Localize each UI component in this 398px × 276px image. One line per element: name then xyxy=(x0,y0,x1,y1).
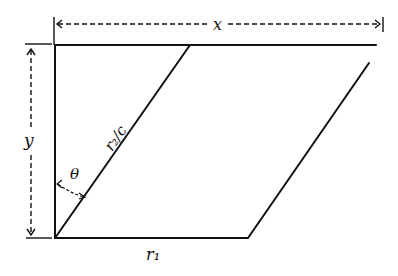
r1-label: r₁ xyxy=(146,245,160,264)
diagonal-right xyxy=(248,63,369,238)
theta-label: θ xyxy=(70,165,79,183)
y-label: y xyxy=(23,130,34,150)
parallelogram-diagram: x y θ r₂/c r₁ xyxy=(0,0,398,276)
x-label: x xyxy=(213,15,222,34)
r2c-label: r₂/c xyxy=(101,122,131,155)
